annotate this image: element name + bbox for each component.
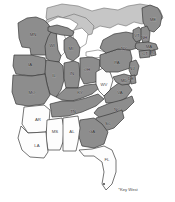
state-label-MN: MN [30, 32, 37, 37]
state-label-SC: SC [105, 121, 111, 126]
key-west-label: *Key West [118, 187, 138, 192]
state-label-RI: RI [151, 50, 155, 55]
eastern-us-map: MNWIMIIAILINOHMOKYTNWVPANYVANCSCGAARMSAL… [0, 0, 175, 202]
state-label-WV: WV [101, 82, 108, 87]
state-label-MO: MO [29, 90, 37, 95]
state-label-VT: VT [134, 33, 140, 38]
state-label-DE: DE [128, 76, 134, 81]
state-label-AL: AL [69, 129, 75, 134]
state-label-GA: GA [89, 129, 95, 134]
state-label-IA: IA [28, 62, 32, 67]
state-label-MD: MD [121, 78, 128, 83]
state-label-MA: MA [146, 44, 153, 49]
state-label-WI: WI [49, 43, 54, 48]
state-label-NC: NC [114, 107, 120, 112]
state-label-MS: MS [52, 129, 59, 134]
state-label-IL: IL [52, 73, 56, 78]
state-label-NH: NH [141, 35, 147, 40]
state-label-NY: NY [121, 46, 127, 51]
key-west-marker [103, 183, 105, 185]
state-label-PA: PA [114, 60, 120, 65]
state-label-NJ: NJ [129, 66, 134, 71]
state-label-TN: TN [70, 109, 76, 114]
state-label-IN: IN [70, 71, 74, 76]
state-label-AR: AR [35, 117, 41, 122]
state-FL[interactable] [79, 146, 116, 190]
map-container: MNWIMIIAILINOHMOKYTNWVPANYVANCSCGAARMSAL… [0, 0, 175, 202]
state-label-LA: LA [34, 143, 39, 148]
state-label-FL: FL [104, 157, 110, 162]
state-label-VA: VA [117, 90, 123, 95]
state-label-OH: OH [84, 67, 90, 72]
state-label-ME: ME [150, 17, 157, 22]
state-label-CT: CT [142, 51, 148, 56]
state-label-MI: MI [69, 46, 74, 51]
state-label-KY: KY [77, 90, 83, 95]
